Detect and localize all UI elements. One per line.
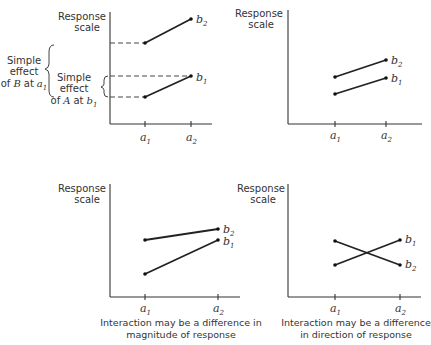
annotation-B-line3: ofBata1 [1, 78, 48, 92]
y-axis-label-line2: scale [74, 22, 100, 33]
series-label-b2: b2 [391, 54, 403, 69]
caption-line2: in direction of response [300, 329, 412, 340]
line-b1 [145, 240, 218, 274]
series-label-b1: b1 [196, 71, 208, 86]
point-b2-a2 [216, 227, 220, 231]
x-label-a1: a1 [330, 302, 341, 317]
panel-top-right: Response scale b2 b1 a1 a2 [235, 8, 422, 144]
annotation-B-line1: Simple [7, 55, 41, 66]
brace-simple-effect-A [101, 76, 108, 97]
x-label-a1: a1 [140, 302, 151, 317]
y-axis-label-line1: Response [58, 183, 106, 194]
point-b2-a2 [398, 263, 402, 267]
line-b2 [145, 19, 191, 43]
point-b2-a1 [333, 239, 337, 243]
point-b1-a1 [143, 272, 147, 276]
annotation-B-line2: effect [10, 66, 39, 77]
point-b2-a2 [189, 17, 193, 21]
y-axis-label-line2: scale [248, 19, 274, 30]
point-b1-a1 [333, 263, 337, 267]
caption-line1: Interaction may be a difference [281, 317, 431, 328]
annotation-A-line3: ofAatb1 [51, 95, 98, 109]
y-axis-label-line1: Response [235, 8, 283, 19]
y-axis-label-line2: scale [74, 194, 100, 205]
line-b2 [145, 229, 218, 240]
series-label-b2: b2 [196, 13, 208, 28]
interaction-diagram: Response scale b2 b1 a1 a2 Simple effect… [0, 0, 431, 345]
panel-bottom-left: Response scale b2 b1 a1 a2 Interaction m… [58, 183, 262, 340]
panel-top-left: Response scale b2 b1 a1 a2 Simple effect… [1, 11, 212, 146]
series-label-b1: b1 [405, 233, 417, 248]
x-label-a2: a2 [395, 302, 407, 317]
panel-bottom-right: Response scale b1 b2 a1 a2 Interaction m… [237, 183, 431, 340]
x-label-a1: a1 [140, 131, 151, 146]
line-b2 [335, 60, 386, 77]
line-b1 [335, 78, 386, 94]
point-b1-a2 [384, 76, 388, 80]
point-b1-a1 [143, 95, 147, 99]
point-b1-a1 [333, 92, 337, 96]
series-label-b2: b2 [405, 258, 417, 273]
point-b2-a1 [333, 75, 337, 79]
y-axis-label-line1: Response [58, 11, 106, 22]
series-label-b1: b1 [391, 72, 403, 87]
line-b1 [145, 76, 191, 97]
caption-line1: Interaction may be a difference in [100, 317, 261, 328]
x-label-a2: a2 [381, 129, 393, 144]
y-axis-label-line1: Response [237, 183, 285, 194]
point-b1-a2 [189, 74, 193, 78]
annotation-A-line2: effect [60, 83, 89, 94]
point-b1-a2 [216, 238, 220, 242]
x-label-a1: a1 [330, 129, 341, 144]
point-b2-a2 [384, 58, 388, 62]
point-b2-a1 [143, 238, 147, 242]
point-b1-a2 [398, 238, 402, 242]
x-label-a2: a2 [213, 302, 225, 317]
point-b2-a1 [143, 41, 147, 45]
y-axis-label-line2: scale [250, 194, 276, 205]
caption-line2: magnitude of response [126, 329, 236, 340]
annotation-A-line1: Simple [57, 72, 91, 83]
x-label-a2: a2 [186, 131, 198, 146]
